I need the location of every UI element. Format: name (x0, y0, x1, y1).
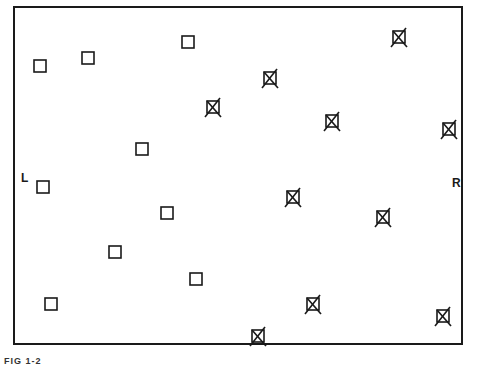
crossed-square-marker (375, 208, 391, 227)
crossed-square-marker (285, 188, 301, 207)
open-square-marker (161, 207, 173, 219)
marker-layer (0, 0, 484, 366)
crossed-square-marker (391, 28, 407, 47)
open-square-marker (136, 143, 148, 155)
open-square-marker (190, 273, 202, 285)
crossed-square-marker (262, 69, 278, 88)
crossed-square-marker (441, 120, 457, 139)
open-square-marker (45, 298, 57, 310)
open-square-marker (37, 181, 49, 193)
open-square-marker (34, 60, 46, 72)
open-square-marker (82, 52, 94, 64)
open-square-marker (182, 36, 194, 48)
crossed-square-marker (324, 112, 340, 131)
crossed-square-marker (305, 295, 321, 314)
crossed-square-marker (435, 307, 451, 326)
crossed-square-marker (205, 98, 221, 117)
crossed-square-marker (250, 327, 266, 346)
open-square-marker (109, 246, 121, 258)
